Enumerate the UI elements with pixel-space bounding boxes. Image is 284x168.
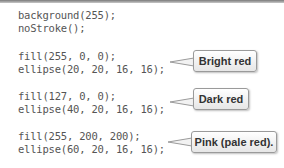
callout-pointer-icon <box>166 137 192 147</box>
code-line: fill(127, 0, 0); <box>18 90 116 102</box>
callout-pointer-icon <box>168 97 194 107</box>
callout-dark-red: Dark red <box>193 88 249 110</box>
code-line: ellipse(60, 20, 16, 16); <box>18 143 165 155</box>
code-line: fill(255, 0, 0); <box>18 50 116 62</box>
top-border <box>0 0 284 3</box>
code-line: fill(255, 200, 200); <box>18 130 140 142</box>
callout-pink: Pink (pale red). <box>191 131 277 153</box>
code-line: noStroke(); <box>18 22 85 34</box>
code-line: ellipse(20, 20, 16, 16); <box>18 63 165 75</box>
code-line: background(255); <box>18 9 116 21</box>
code-line: ellipse(40, 20, 16, 16); <box>18 103 165 115</box>
callout-pointer-icon <box>168 57 194 67</box>
callout-bright-red: Bright red <box>193 50 257 72</box>
